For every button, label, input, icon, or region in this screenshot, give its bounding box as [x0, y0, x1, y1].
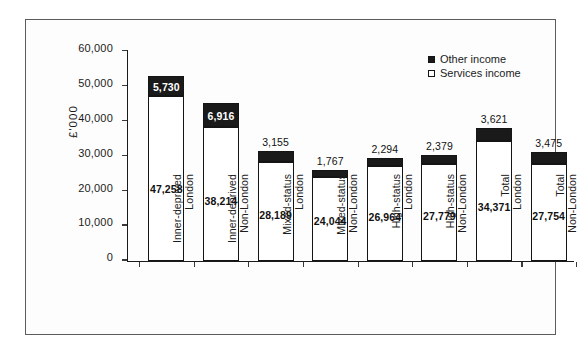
x-tick-7: [576, 262, 577, 267]
y-tick-6: 60,000: [122, 50, 127, 51]
y-tick-label-3: 30,000: [78, 147, 113, 159]
bar-value-label-other-income: 1,767: [312, 155, 348, 167]
y-axis-line: [127, 50, 128, 262]
bar-segment-other-income: [531, 152, 567, 164]
x-category-label: Mixed-status Non-London: [336, 174, 350, 270]
y-tick-label-1: 10,000: [78, 216, 113, 228]
x-tick-4: [412, 262, 413, 267]
x-tick-6: [521, 262, 522, 267]
bar-value-label-other-income: 3,475: [531, 137, 567, 149]
bar-segment-other-income: [367, 158, 403, 166]
x-tick-1: [248, 262, 249, 267]
x-category-label: Inner-deprived Non-London: [227, 174, 241, 270]
bar-value-label-other-income: 6,916: [203, 110, 239, 122]
bar-segment-other-income: [258, 151, 294, 162]
x-tick-0: [194, 262, 195, 267]
bar-value-label-other-income: 3,155: [258, 136, 294, 148]
x-tick-5: [467, 262, 468, 267]
x-category-label: Total Non-London: [555, 174, 569, 270]
x-category-label: High-status Non-London: [445, 174, 459, 270]
bar-value-label-other-income: 3,621: [476, 113, 512, 125]
y-tick-5: 50,000: [122, 85, 127, 86]
x-category-label: Inner-deprived London: [172, 174, 186, 270]
y-tick-label-4: 40,000: [78, 112, 113, 124]
y-tick-label-2: 20,000: [78, 182, 113, 194]
x-category-label: High-status London: [391, 174, 405, 270]
y-tick-2: 20,000: [122, 190, 127, 191]
y-tick-label-6: 60,000: [78, 42, 113, 54]
plot-area: 010,00020,00030,00040,00050,00060,000 47…: [127, 50, 574, 262]
x-tick-2: [303, 262, 304, 267]
x-tick-origin: [139, 262, 140, 267]
bar-value-label-other-income: 5,730: [148, 81, 184, 93]
y-tick-4: 40,000: [122, 120, 127, 121]
bar-segment-other-income: [421, 155, 457, 163]
bar-value-label-other-income: 2,379: [421, 140, 457, 152]
x-category-label: Total London: [500, 174, 514, 270]
bar-value-label-other-income: 2,294: [367, 143, 403, 155]
y-tick-1: 10,000: [122, 224, 127, 225]
y-tick-label-0: 0: [107, 251, 113, 263]
chart-frame: £'000 Other income Services income 010,0…: [25, 19, 556, 335]
x-tick-3: [358, 262, 359, 267]
x-category-label: Mixed-status London: [282, 174, 296, 270]
y-tick-label-5: 50,000: [78, 77, 113, 89]
y-tick-0: 0: [122, 259, 127, 260]
bar-segment-other-income: [476, 128, 512, 141]
y-tick-3: 30,000: [122, 155, 127, 156]
chart-figure: £'000 Other income Services income 010,0…: [0, 0, 579, 356]
